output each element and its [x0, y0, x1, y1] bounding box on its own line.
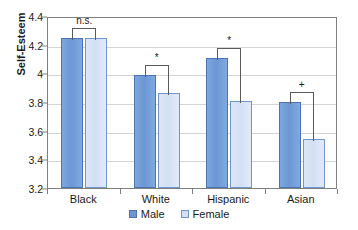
bracket-line — [217, 48, 218, 60]
x-axis-label-white: White — [116, 193, 196, 205]
y-axis-tick-label: 3.4 — [3, 154, 43, 166]
x-axis-tick-mark — [120, 189, 121, 194]
x-axis-label-black: Black — [43, 193, 123, 205]
y-axis-tick-label: 4 — [3, 68, 43, 80]
bracket-line — [72, 28, 73, 40]
y-axis-tick-label: 4.2 — [3, 40, 43, 52]
significance-label: n.s. — [72, 15, 96, 26]
bar-hispanic-male — [206, 58, 228, 188]
bar-black-female — [85, 38, 107, 188]
legend-label: Male — [141, 208, 165, 220]
significance-label: * — [145, 52, 169, 63]
bar-white-female — [158, 93, 180, 188]
y-axis-tick-label: 4.4 — [3, 11, 43, 23]
x-axis-tick-mark — [337, 189, 338, 194]
legend-item-female[interactable]: Female — [181, 208, 230, 220]
self-esteem-bar-chart: Self-Esteem 3.23.43.63.844.24.4 n.s.**+ … — [0, 0, 358, 230]
significance-label: * — [217, 35, 241, 46]
legend: MaleFemale — [0, 208, 358, 220]
bar-asian-male — [279, 102, 301, 188]
plot-area: n.s.**+ — [47, 17, 337, 189]
bracket-line — [145, 65, 169, 66]
bracket-line — [168, 65, 169, 94]
legend-label: Female — [193, 208, 230, 220]
bracket-line — [217, 48, 241, 49]
x-axis-label-asian: Asian — [261, 193, 341, 205]
bar-hispanic-female — [230, 101, 252, 188]
significance-label: + — [290, 79, 314, 90]
bar-asian-female — [303, 139, 325, 188]
y-axis-tick-label: 3.6 — [3, 126, 43, 138]
bracket-line — [145, 65, 146, 77]
bar-black-male — [61, 38, 83, 188]
bar-white-male — [134, 75, 156, 188]
x-axis-tick-mark — [265, 189, 266, 194]
bracket-line — [95, 28, 96, 40]
x-axis-tick-mark — [192, 189, 193, 194]
bracket-line — [313, 92, 314, 141]
bracket-line — [290, 92, 314, 93]
bracket-line — [240, 48, 241, 103]
x-axis-tick-mark — [47, 189, 48, 194]
legend-item-male[interactable]: Male — [129, 208, 165, 220]
x-axis-label-hispanic: Hispanic — [188, 193, 268, 205]
bracket-line — [72, 28, 96, 29]
y-axis-tick-label: 3.8 — [3, 97, 43, 109]
legend-swatch-female — [181, 210, 189, 218]
legend-swatch-male — [129, 210, 137, 218]
bracket-line — [290, 92, 291, 104]
y-axis-tick-label: 3.2 — [3, 183, 43, 195]
